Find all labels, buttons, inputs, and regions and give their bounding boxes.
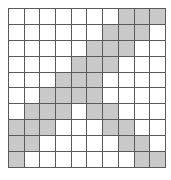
grid-cell-shaded <box>87 41 103 57</box>
grid-cell-shaded <box>103 104 119 120</box>
grid-cell-empty <box>135 88 151 104</box>
grid-cell-shaded <box>103 57 119 73</box>
grid-cell-empty <box>9 41 25 57</box>
grid-cell-empty <box>150 136 166 152</box>
grid-cell-shaded <box>119 9 135 25</box>
grid-cell-shaded <box>40 88 56 104</box>
grid-cell-shaded <box>9 136 25 152</box>
grid-cell-empty <box>72 120 88 136</box>
grid-cell-empty <box>119 104 135 120</box>
grid-cell-empty <box>119 152 135 168</box>
grid-cell-empty <box>40 152 56 168</box>
grid-cell-empty <box>119 57 135 73</box>
grid-cell-empty <box>9 73 25 89</box>
grid-cell-shaded <box>119 25 135 41</box>
grid-cell-shaded <box>56 88 72 104</box>
grid-cell-empty <box>72 152 88 168</box>
grid-cell-empty <box>9 57 25 73</box>
grid-cell-empty <box>56 152 72 168</box>
grid-cell-empty <box>150 120 166 136</box>
grid-cell-empty <box>56 25 72 41</box>
grid-cell-empty <box>87 25 103 41</box>
grid-cell-empty <box>72 104 88 120</box>
grid-cell-shaded <box>87 73 103 89</box>
grid-cell-shaded <box>72 88 88 104</box>
grid-cell-shaded <box>87 88 103 104</box>
grid-cell-empty <box>72 41 88 57</box>
grid-cell-empty <box>135 41 151 57</box>
grid-cell-empty <box>56 9 72 25</box>
grid-cell-empty <box>135 104 151 120</box>
grid-cell-empty <box>25 88 41 104</box>
grid-cell-shaded <box>72 57 88 73</box>
grid-cell-shaded <box>135 152 151 168</box>
grid-cell-empty <box>9 88 25 104</box>
grid-cell-shaded <box>72 73 88 89</box>
grid-cell-empty <box>25 57 41 73</box>
grid-cell-empty <box>103 9 119 25</box>
grid-cell-empty <box>135 73 151 89</box>
grid-cell-shaded <box>119 120 135 136</box>
grid-cell-empty <box>150 73 166 89</box>
grid-cell-empty <box>150 104 166 120</box>
grid-cell-shaded <box>87 104 103 120</box>
grid-cell-empty <box>25 9 41 25</box>
grid-cell-empty <box>9 104 25 120</box>
grid-cell-shaded <box>25 136 41 152</box>
grid-cell-empty <box>56 120 72 136</box>
grid-cell-empty <box>72 25 88 41</box>
grid-cell-empty <box>150 25 166 41</box>
grid-cell-empty <box>150 57 166 73</box>
grid-cell-empty <box>103 136 119 152</box>
grid-cell-empty <box>103 152 119 168</box>
grid-cell-empty <box>40 57 56 73</box>
grid-cell-shaded <box>119 41 135 57</box>
grid-cell-empty <box>135 120 151 136</box>
grid-cell-empty <box>135 57 151 73</box>
grid-cell-shaded <box>150 152 166 168</box>
grid-cell-shaded <box>25 120 41 136</box>
grid-cell-empty <box>150 41 166 57</box>
grid-cell-shaded <box>40 120 56 136</box>
grid-cell-shaded <box>56 104 72 120</box>
grid-cell-empty <box>87 136 103 152</box>
grid-cell-empty <box>40 73 56 89</box>
grid-cell-empty <box>72 136 88 152</box>
grid-cell-shaded <box>40 104 56 120</box>
grid-cell-shaded <box>9 120 25 136</box>
grid-cell-shaded <box>135 9 151 25</box>
grid-cell-shaded <box>103 25 119 41</box>
grid-cell-empty <box>40 41 56 57</box>
grid-cell-empty <box>56 136 72 152</box>
grid-cell-shaded <box>103 120 119 136</box>
grid-cell-empty <box>25 41 41 57</box>
grid-cell-shaded <box>25 104 41 120</box>
grid-cell-empty <box>87 120 103 136</box>
grid-cell-empty <box>25 25 41 41</box>
grid-cell-empty <box>150 88 166 104</box>
grid-cell-empty <box>25 152 41 168</box>
grid-cell-empty <box>56 57 72 73</box>
grid-cell-shaded <box>135 136 151 152</box>
grid-cell-empty <box>119 73 135 89</box>
grid-cell-empty <box>103 88 119 104</box>
grid-cell-empty <box>9 25 25 41</box>
grid-cell-shaded <box>56 73 72 89</box>
grid-cell-empty <box>119 88 135 104</box>
grid-cell-empty <box>40 136 56 152</box>
grid-cell-empty <box>56 41 72 57</box>
grid-cell-empty <box>9 9 25 25</box>
grid-cell-empty <box>25 73 41 89</box>
grid-cell-shaded <box>9 152 25 168</box>
grid-cell-shaded <box>119 136 135 152</box>
grid-cell-shaded <box>135 25 151 41</box>
grid-cell-empty <box>87 9 103 25</box>
grid-cell-empty <box>40 9 56 25</box>
grid-cell-shaded <box>87 57 103 73</box>
grid-cell-empty <box>72 9 88 25</box>
grid-cell-empty <box>87 152 103 168</box>
grid-cell-empty <box>40 25 56 41</box>
grid-cell-empty <box>103 73 119 89</box>
grid-cell-shaded <box>150 9 166 25</box>
grid-cell-shaded <box>103 41 119 57</box>
